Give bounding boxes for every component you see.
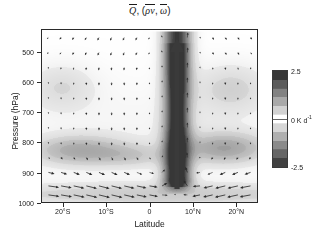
circulation-arrow: [162, 155, 163, 157]
circulation-arrow: [85, 52, 87, 55]
circulation-arrow: [237, 127, 238, 129]
circulation-arrow: [185, 167, 188, 173]
colorbar-min-label: -2.5: [291, 164, 303, 171]
circulation-arrow: [149, 82, 150, 84]
circulation-arrow: [123, 82, 125, 85]
x-axis-tick-label: 20°S: [55, 208, 70, 215]
circulation-arrow: [232, 172, 238, 175]
y-axis-tick: [37, 52, 41, 53]
circulation-arrow: [184, 180, 188, 186]
circulation-arrow: [161, 140, 162, 142]
circulation-arrow: [199, 37, 201, 39]
y-axis-tick: [37, 173, 41, 174]
circulation-arrow: [73, 82, 74, 84]
circulation-arrow: [161, 110, 162, 112]
circulation-arrow: [111, 97, 113, 100]
circulation-arrow: [123, 67, 125, 70]
circulation-arrow: [85, 67, 87, 70]
x-axis-tick-label: 20°N: [228, 208, 244, 215]
circulation-arrow: [85, 127, 87, 130]
circulation-arrow: [73, 112, 74, 114]
circulation-arrow: [186, 107, 188, 112]
circulation-arrow: [186, 92, 188, 97]
circulation-arrow: [161, 125, 162, 127]
circulation-arrow: [212, 142, 213, 144]
x-axis-tick-label: 10°N: [185, 208, 201, 215]
circulation-arrow: [148, 37, 149, 39]
circulation-arrow: [250, 142, 251, 144]
circulation-arrow: [149, 67, 150, 69]
colorbar-mid-value: 0: [291, 117, 295, 124]
circulation-arrow: [224, 112, 226, 115]
circulation-arrow: [98, 112, 100, 115]
circulation-arrow: [60, 142, 61, 144]
circulation-arrow: [123, 97, 125, 100]
circulation-arrow: [123, 127, 125, 130]
circulation-arrow: [61, 172, 67, 175]
circulation-arrow: [111, 157, 113, 160]
circulation-arrow: [212, 67, 213, 69]
circulation-arrow: [99, 172, 105, 175]
circulation-arrow: [240, 195, 251, 198]
circulation-arrow: [124, 195, 135, 198]
circulation-arrow: [161, 50, 162, 52]
circulation-arrow: [161, 35, 162, 37]
circulation-arrow: [212, 82, 213, 84]
circulation-arrow: [110, 37, 112, 40]
y-axis-tick-label: 900: [8, 169, 34, 176]
circulation-arrow: [48, 127, 49, 129]
circulation-arrow: [225, 52, 227, 55]
circulation-arrow: [60, 127, 61, 129]
circulation-arrow: [74, 195, 85, 198]
circulation-arrow: [199, 52, 201, 54]
title-close-paren: ): [167, 5, 171, 16]
circulation-arrow: [224, 97, 226, 100]
circulation-arrow: [98, 142, 100, 145]
circulation-arrow: [73, 127, 74, 129]
circulation-arrow: [236, 157, 238, 159]
circulation-arrow: [237, 142, 238, 144]
circulation-arrow: [136, 97, 138, 100]
circulation-arrow: [48, 82, 49, 84]
y-axis-tick-label: 1000: [8, 200, 34, 207]
y-axis-tick: [37, 82, 41, 83]
circulation-arrow: [110, 52, 112, 55]
circulation-arrow: [250, 112, 251, 114]
circulation-arrow: [215, 195, 225, 198]
circulation-arrow: [250, 127, 251, 129]
circulation-arrow: [73, 97, 74, 99]
circulation-arrow: [60, 112, 61, 114]
circulation-arrow: [196, 172, 200, 174]
circulation-arrow: [149, 195, 157, 198]
circulation-arrow: [85, 82, 87, 85]
circulation-arrow: [98, 67, 100, 70]
circulation-arrow: [192, 195, 200, 198]
x-axis-tick: [236, 203, 237, 207]
circulation-arrow: [237, 37, 239, 39]
circulation-arrow: [224, 142, 226, 145]
circulation-arrow: [149, 142, 150, 144]
circulation-arrow: [136, 67, 138, 70]
circulation-arrow: [60, 67, 61, 69]
figure-panel: Q, (ρv, ω) 20°S10°S010°N20°N500600700800…: [0, 0, 323, 236]
circulation-arrow: [199, 97, 200, 99]
circulation-arrow: [162, 194, 168, 196]
circulation-arrow: [245, 172, 251, 175]
circulation-arrow: [73, 142, 74, 144]
circulation-arrow: [60, 52, 62, 54]
circulation-arrow: [228, 186, 238, 189]
circulation-arrow: [250, 52, 251, 54]
y-axis-tick: [37, 112, 41, 113]
circulation-arrow: [212, 97, 213, 99]
circulation-arrow: [61, 195, 72, 198]
circulation-arrow: [137, 186, 147, 189]
circulation-arrow: [212, 52, 214, 54]
circulation-arrow: [123, 142, 125, 145]
circulation-arrow: [224, 157, 226, 160]
circulation-arrow: [86, 172, 92, 175]
circulation-arrow: [199, 112, 200, 114]
circulation-arrow: [250, 37, 252, 39]
circulation-arrow: [199, 157, 201, 159]
circulation-arrow: [149, 127, 150, 129]
circulation-arrow: [161, 80, 162, 82]
